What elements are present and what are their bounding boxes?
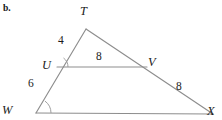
segment-t-x-line [86,29,213,114]
length-label-uw: 6 [28,78,34,90]
geometry-figure: b. T U V W X 4 6 8 8 [0,0,222,120]
vertex-label-x: X [207,105,215,118]
figure-canvas [0,0,222,120]
item-label: b. [3,4,11,14]
vertex-label-u: U [42,59,51,72]
segment-w-x-line [36,113,213,114]
length-label-tu: 4 [58,35,64,47]
length-label-vx: 8 [176,81,182,93]
length-label-uv: 8 [96,51,102,63]
angle-mark-w-arc [45,101,51,113]
vertex-label-w: W [2,104,12,117]
vertex-label-v: V [148,56,156,69]
vertex-label-t: T [80,5,87,18]
